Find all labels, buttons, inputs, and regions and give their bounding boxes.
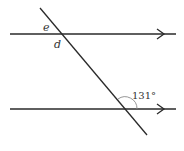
angle-label-e: e — [43, 21, 50, 34]
angle-label-d: d — [54, 38, 61, 51]
angle-label-131: 131° — [132, 90, 156, 101]
transversal-line — [40, 8, 147, 135]
parallel-lines-diagram: e d 131° — [0, 0, 184, 151]
